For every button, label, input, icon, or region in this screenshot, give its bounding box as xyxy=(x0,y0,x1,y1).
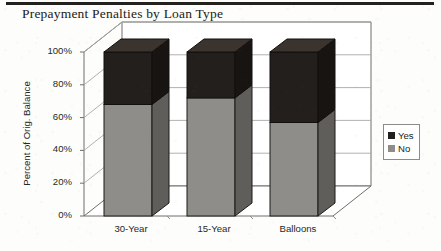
bar-segment-no-balloons xyxy=(270,123,318,217)
plot-area: 100% 80% 60% 40% 20% 0% Percent of Orig.… xyxy=(0,0,441,251)
legend-swatch-yes-icon xyxy=(388,132,395,139)
bar-side-yes-balloons xyxy=(318,39,335,123)
bar-group-15-year xyxy=(187,39,252,216)
x-tick-label-15-year: 15-Year xyxy=(169,223,259,234)
bar-segment-yes-30-year xyxy=(104,52,152,105)
x-tick-label-balloons: Balloons xyxy=(253,223,343,234)
bar-side-no-balloons xyxy=(318,110,335,217)
legend-label-no: No xyxy=(398,144,410,154)
y-axis-title: Percent of Orig. Balance xyxy=(21,64,32,204)
bar-side-no-15-year xyxy=(235,85,252,216)
bar-segment-yes-15-year xyxy=(187,52,235,98)
legend-swatch-no-icon xyxy=(388,145,395,152)
legend-item-no: No xyxy=(388,142,414,155)
y-tick-label-20: 20% xyxy=(32,176,72,187)
legend: Yes No xyxy=(383,124,420,160)
y-tick-label-80: 80% xyxy=(32,78,72,89)
legend-label-yes: Yes xyxy=(398,131,414,141)
chart-figure: Prepayment Penalties by Loan Type xyxy=(0,0,441,251)
bar-group-30-year xyxy=(104,39,169,216)
bar-segment-no-30-year xyxy=(104,105,152,217)
x-tick-label-30-year: 30-Year xyxy=(86,223,176,234)
y-tick-label-0: 0% xyxy=(32,209,72,220)
y-axis-ticks xyxy=(80,52,84,216)
legend-item-yes: Yes xyxy=(388,129,414,142)
bar-side-no-30-year xyxy=(152,92,169,217)
bar-segment-yes-balloons xyxy=(270,52,318,123)
bar-group-balloons xyxy=(270,39,335,216)
bar-segment-no-15-year xyxy=(187,98,235,216)
y-tick-label-100: 100% xyxy=(32,45,72,56)
y-tick-label-60: 60% xyxy=(32,111,72,122)
y-tick-label-40: 40% xyxy=(32,143,72,154)
